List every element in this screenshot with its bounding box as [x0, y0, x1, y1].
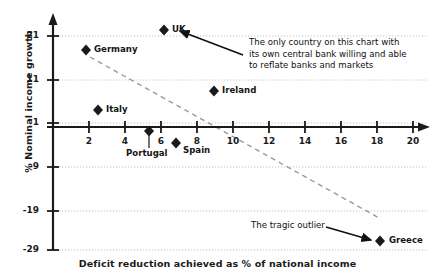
x-tick-label-6: 6 — [149, 136, 173, 146]
x-tick-label-12: 12 — [257, 136, 281, 146]
y-tick-label-n9: -9 — [13, 161, 39, 171]
greece-annotation-line-1: The tragic outlier — [251, 220, 325, 232]
y-axis-title: % Nominal income growth — [23, 22, 34, 182]
x-tick-label-14: 14 — [293, 136, 317, 146]
point-label-ireland: Ireland — [222, 85, 256, 95]
point-label-greece: Greece — [389, 235, 423, 245]
point-label-italy: Italy — [106, 104, 128, 114]
x-tick-label-4: 4 — [113, 136, 137, 146]
y-tick-label-n29: -29 — [13, 244, 39, 254]
point-label-germany: Germany — [94, 44, 138, 54]
point-label-portugal: Portugal — [126, 148, 168, 158]
x-tick-label-2: 2 — [77, 136, 101, 146]
greece-annotation-arrow — [326, 227, 371, 240]
marker-germany — [81, 45, 91, 56]
uk-annotation-arrow — [180, 31, 243, 55]
uk-annotation-text: The only country on this chart with its … — [249, 37, 407, 72]
x-tick-label-16: 16 — [329, 136, 353, 146]
marker-greece — [375, 236, 385, 247]
uk-annotation-line-2: its own central bank willing and able — [249, 49, 407, 61]
point-label-uk: UK — [172, 24, 186, 34]
uk-annotation-line-1: The only country on this chart with — [249, 37, 407, 49]
y-tick-label-1: 1 — [13, 117, 39, 127]
y-tick-label-11: 11 — [13, 74, 39, 84]
scatter-chart: % Nominal income growth Deficit reductio… — [0, 0, 435, 277]
point-label-spain: Spain — [183, 145, 210, 155]
y-axis-arrow — [49, 13, 58, 25]
x-tick-label-18: 18 — [365, 136, 389, 146]
greece-annotation-text: The tragic outlier — [251, 220, 325, 232]
x-axis-title: Deficit reduction achieved as % of natio… — [0, 258, 435, 269]
uk-annotation-line-3: to reflate banks and markets — [249, 60, 407, 72]
marker-ireland — [209, 86, 219, 97]
marker-italy — [93, 105, 103, 116]
y-tick-label-21: 21 — [13, 30, 39, 40]
marker-uk — [159, 25, 169, 36]
y-tick-label-n19: -19 — [13, 205, 39, 215]
x-tick-label-10: 10 — [221, 136, 245, 146]
x-tick-label-20: 20 — [401, 136, 425, 146]
x-axis-arrow — [418, 123, 430, 132]
